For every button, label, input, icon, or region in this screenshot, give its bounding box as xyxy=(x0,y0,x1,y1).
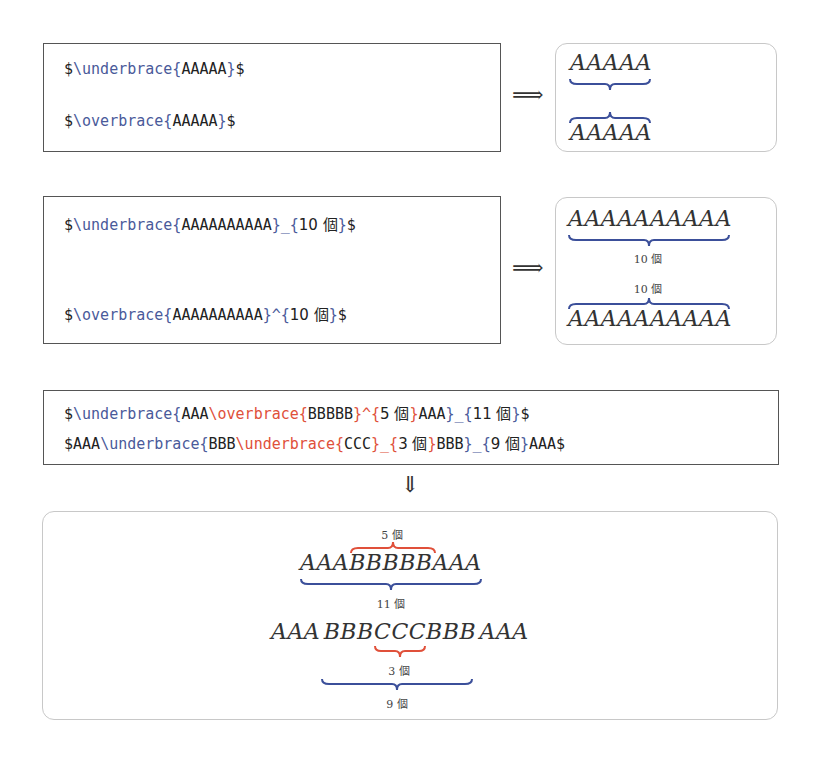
example2-code-line-overbrace: $\overbrace{AAAAAAAAAA}^{10 個}$ xyxy=(64,303,347,324)
subscript-open: }_{ xyxy=(464,435,491,453)
text: AAA$ xyxy=(529,435,565,453)
implies-arrow-icon: ⟹ xyxy=(512,255,544,280)
subscript-open: }_{ xyxy=(446,405,473,423)
row2-result-text: AAA BBBCCCBBB AAA xyxy=(271,619,529,644)
close-brace: } xyxy=(427,435,436,453)
down-arrow-icon: ⇓ xyxy=(401,472,419,497)
text: BBB xyxy=(209,435,236,453)
example1-code-line-underbrace: $\underbrace{AAAAA}$ xyxy=(64,60,245,78)
underbrace-blue-icon xyxy=(321,678,473,692)
close-brace: } xyxy=(511,405,520,423)
close-brace: } xyxy=(218,112,227,130)
dollar: $ xyxy=(347,216,356,234)
text: $AAA xyxy=(64,435,100,453)
argument: AAAAAAAAAA xyxy=(181,216,271,234)
example3-code-line-2: $AAA\underbrace{BBB\underbrace{CCC}_{3 個… xyxy=(64,432,565,453)
close-brace: } xyxy=(227,60,236,78)
overbrace-result-text: AAAAAAAAAA xyxy=(568,306,732,331)
dollar: $ xyxy=(227,112,236,130)
argument: AAAAA xyxy=(181,60,226,78)
underbrace-blue-icon xyxy=(300,578,482,592)
example3-code-box: $\underbrace{AAA\overbrace{BBBBB}^{5 個}A… xyxy=(43,390,779,465)
example2-code-line-underbrace: $\underbrace{AAAAAAAAAA}_{10 個}$ xyxy=(64,213,356,234)
example1-code-box: $\underbrace{AAAAA}$ $\overbrace{AAAAA}$ xyxy=(43,43,501,152)
superscript-open: }^{ xyxy=(353,405,380,423)
underbrace-command: \underbrace{ xyxy=(73,405,181,423)
underbrace-label-9: 9 個 xyxy=(377,695,417,711)
dollar: $ xyxy=(521,405,530,423)
argument: AAAAA xyxy=(172,112,217,130)
dollar: $ xyxy=(64,405,73,423)
underbrace-label: 10 個 xyxy=(628,250,668,266)
close-brace: } xyxy=(329,306,338,324)
example3-code-line-1: $\underbrace{AAA\overbrace{BBBBB}^{5 個}A… xyxy=(64,402,530,423)
text: BBBBB xyxy=(308,405,353,423)
superscript-open: }^{ xyxy=(263,306,290,324)
subscript-open: }_{ xyxy=(371,435,398,453)
underbrace-label-11: 11 個 xyxy=(369,595,413,611)
underbrace-red-icon xyxy=(374,645,426,659)
underbrace-command: \underbrace{ xyxy=(100,435,208,453)
underbrace-icon xyxy=(568,234,730,248)
overbrace-command: \overbrace{ xyxy=(209,405,308,423)
example2-result-box: AAAAAAAAAA 10 個 10 個 AAAAAAAAAA xyxy=(555,197,777,345)
underbrace-result-text: AAAAA xyxy=(570,50,652,75)
overbrace-command: \overbrace{ xyxy=(73,112,172,130)
label: 3 個 xyxy=(398,435,427,453)
dollar: $ xyxy=(338,306,347,324)
underbrace-icon xyxy=(569,78,651,92)
text: AAA xyxy=(418,405,445,423)
underbrace-label-3: 3 個 xyxy=(379,662,419,678)
overbrace-command: \overbrace{ xyxy=(73,306,172,324)
dollar: $ xyxy=(64,216,73,234)
implies-arrow-icon: ⟹ xyxy=(512,82,544,107)
row1-result-text: AAABBBBBAAA xyxy=(300,550,482,575)
example1-code-line-overbrace: $\overbrace{AAAAA}$ xyxy=(64,112,236,130)
close-brace: } xyxy=(520,435,529,453)
label: 9 個 xyxy=(491,435,520,453)
label: 10 個 xyxy=(290,306,329,324)
label: 11 個 xyxy=(473,405,512,423)
example1-result-box: AAAAA AAAAA xyxy=(555,43,777,152)
dollar: $ xyxy=(64,60,73,78)
text: BBB xyxy=(437,435,464,453)
dollar: $ xyxy=(64,306,73,324)
close-brace: } xyxy=(338,216,347,234)
label: 10 個 xyxy=(299,216,338,234)
example2-code-box: $\underbrace{AAAAAAAAAA}_{10 個}$ $\overb… xyxy=(43,196,501,344)
argument: AAAAAAAAAA xyxy=(172,306,262,324)
underbrace-command: \underbrace{ xyxy=(73,60,181,78)
underbrace-command: \underbrace{ xyxy=(73,216,181,234)
underbrace-result-text: AAAAAAAAAA xyxy=(568,206,732,231)
dollar: $ xyxy=(236,60,245,78)
text: CCC xyxy=(344,435,371,453)
subscript-open: }_{ xyxy=(272,216,299,234)
label: 5 個 xyxy=(380,405,409,423)
text: AAA xyxy=(181,405,208,423)
dollar: $ xyxy=(64,112,73,130)
overbrace-label: 10 個 xyxy=(628,280,668,296)
overbrace-result-text: AAAAA xyxy=(570,120,652,145)
example3-result-box: 5 個 AAABBBBBAAA 11 個 AAA BBBCCCBBB AAA 3… xyxy=(42,511,778,720)
underbrace-command: \underbrace{ xyxy=(236,435,344,453)
